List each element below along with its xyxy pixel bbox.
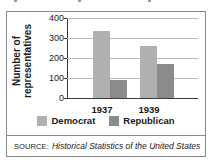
bar-1937-republican: [110, 80, 127, 98]
legend-label-republican: Republican: [123, 115, 174, 126]
y-tick-label-100: 100: [38, 73, 64, 83]
plot: 400 300 200 100 0 1937 1939: [67, 18, 198, 98]
y-tick-label-300: 300: [38, 33, 64, 43]
y-tick-400: [64, 18, 67, 19]
chart-plot-area: Number of representatives 400 300 200 10…: [7, 12, 205, 135]
legend-swatch-democrat: [37, 116, 47, 126]
gridline-200: [67, 58, 198, 59]
y-tick-100: [64, 78, 67, 79]
legend-label-democrat: Democrat: [51, 115, 95, 126]
y-tick-200: [64, 58, 67, 59]
y-axis-title-line1: Number of: [11, 24, 22, 98]
gridline-0: [67, 98, 198, 99]
source-note: SOURCE: Historical Statistics of the Uni…: [7, 135, 205, 156]
y-axis-title-line2: representatives: [22, 24, 33, 98]
chart-figure: Number of representatives 400 300 200 10…: [6, 11, 206, 157]
y-tick-label-200: 200: [38, 53, 64, 63]
bar-1939-democrat: [140, 46, 157, 98]
legend-swatch-republican: [109, 116, 119, 126]
legend-item-democrat: Democrat: [37, 115, 95, 126]
x-tick-label-1937: 1937: [85, 104, 119, 115]
gridline-300: [67, 38, 198, 39]
source-keyword: SOURCE:: [14, 142, 49, 151]
y-tick-0: [64, 98, 67, 99]
legend-item-republican: Republican: [109, 115, 174, 126]
source-title: Historical Statistics of the United Stat…: [52, 141, 200, 151]
bar-1937-democrat: [93, 31, 110, 98]
gridline-100: [67, 78, 198, 79]
y-tick-label-0: 0: [38, 93, 64, 103]
y-axis-title: Number of representatives: [11, 18, 33, 104]
gridline-400: [67, 18, 198, 19]
y-tick-300: [64, 38, 67, 39]
y-tick-label-400: 400: [38, 13, 64, 23]
legend: Democrat Republican: [7, 115, 205, 126]
bar-1939-republican: [157, 64, 174, 98]
x-tick-label-1939: 1939: [132, 104, 166, 115]
top-crop-artifact: [0, 0, 214, 5]
